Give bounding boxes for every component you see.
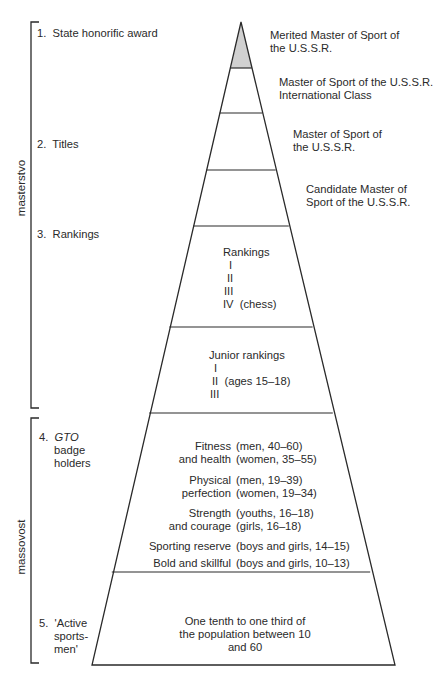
- apex-shading: [231, 22, 252, 68]
- gto-row-physical: Physicalperfection (men, 19–39)(women, 1…: [99, 474, 317, 500]
- masterstvo-label: masterstvo: [15, 158, 27, 218]
- gto-level: and health: [99, 453, 231, 466]
- gto-level: Sporting reserve: [99, 540, 231, 553]
- gto-level: Bold and skillful: [99, 557, 231, 570]
- left-label-2: 2. Titles: [37, 138, 79, 151]
- tier-text: Master of Sport of the U.S.S.R.: [279, 76, 433, 89]
- ranking-item: II: [223, 272, 276, 285]
- tier-text: International Class: [279, 89, 433, 102]
- gto-level: Strength: [99, 507, 231, 520]
- ranking-item: I: [209, 362, 290, 375]
- label-text: Titles: [52, 138, 78, 150]
- left-label-1: 1. State honorific award: [37, 27, 158, 40]
- label-text: GTO: [55, 431, 79, 443]
- tier-junior-rankings: Junior rankings I II (ages 15–18) III: [209, 349, 290, 401]
- tier-title: Junior rankings: [209, 349, 290, 362]
- tier-text: Sport of the U.S.S.R.: [306, 196, 410, 209]
- gto-age: (boys and girls, 10–13): [236, 557, 350, 570]
- gto-age: (men, 40–60): [236, 440, 317, 453]
- tier-rankings: Rankings I II III IV (chess): [223, 246, 276, 311]
- massovost-bracket: [31, 418, 39, 663]
- gto-level: perfection: [99, 487, 231, 500]
- tier-label-master-international: Master of Sport of the U.S.S.R. Internat…: [279, 76, 433, 102]
- ranking-item: IV (chess): [223, 298, 276, 311]
- tier-label-merited-master: Merited Master of Sport of the U.S.S.R.: [270, 29, 399, 55]
- left-label-3: 3. Rankings: [37, 228, 99, 241]
- gto-level: and courage: [99, 520, 231, 533]
- gto-age: (women, 19–34): [236, 487, 317, 500]
- ranking-item: III: [223, 285, 276, 298]
- gto-row-bold-skillful: Bold and skillful (boys and girls, 10–13…: [99, 557, 350, 570]
- gto-age: (girls, 16–18): [236, 520, 314, 533]
- massovost-label: massovost: [15, 517, 27, 577]
- tier-text: One tenth to one third of: [150, 615, 340, 628]
- label-text: State honorific award: [53, 27, 158, 39]
- label-text: men': [39, 643, 88, 656]
- label-text: Rankings: [53, 228, 100, 240]
- tier-text: Master of Sport of: [293, 128, 382, 141]
- tier-label-candidate-master: Candidate Master of Sport of the U.S.S.R…: [306, 183, 410, 209]
- ranking-item: II (ages 15–18): [209, 375, 290, 388]
- label-number: 5.: [39, 617, 48, 629]
- tier-active-sportsmen: One tenth to one third of the population…: [150, 615, 340, 654]
- ranking-item: III: [209, 388, 290, 401]
- gto-row-strength: Strengthand courage (youths, 16–18)(girl…: [99, 507, 314, 533]
- label-number: 4.: [39, 431, 48, 443]
- label-number: 2.: [37, 138, 46, 150]
- gto-age: (men, 19–39): [236, 474, 317, 487]
- ranking-item: I: [223, 259, 276, 272]
- gto-level: Fitness: [99, 440, 231, 453]
- gto-level: Physical: [99, 474, 231, 487]
- label-number: 3.: [37, 228, 46, 240]
- tier-text: the population between 10: [150, 628, 340, 641]
- label-text: badge: [39, 444, 91, 457]
- tier-text: and 60: [150, 641, 340, 654]
- tier-label-master: Master of Sport of the U.S.S.R.: [293, 128, 382, 154]
- tier-text: Candidate Master of: [306, 183, 410, 196]
- tier-title: Rankings: [223, 246, 276, 259]
- label-text: 'Active: [55, 617, 88, 629]
- masterstvo-bracket: [31, 22, 39, 408]
- gto-row-fitness: Fitnessand health (men, 40–60)(women, 35…: [99, 440, 317, 466]
- left-label-4: 4. GTO badge holders: [39, 431, 91, 470]
- tier-text: the U.S.S.R.: [293, 141, 382, 154]
- left-label-5: 5. 'Active sports- men': [39, 617, 88, 656]
- gto-row-sporting-reserve: Sporting reserve (boys and girls, 14–15): [99, 540, 350, 553]
- label-text: sports-: [39, 630, 88, 643]
- gto-age: (boys and girls, 14–15): [236, 540, 350, 553]
- label-number: 1.: [37, 27, 46, 39]
- tier-text: the U.S.S.R.: [270, 42, 399, 55]
- tier-text: Merited Master of Sport of: [270, 29, 399, 42]
- label-text: holders: [39, 457, 91, 470]
- gto-age: (women, 35–55): [236, 453, 317, 466]
- gto-age: (youths, 16–18): [236, 507, 314, 520]
